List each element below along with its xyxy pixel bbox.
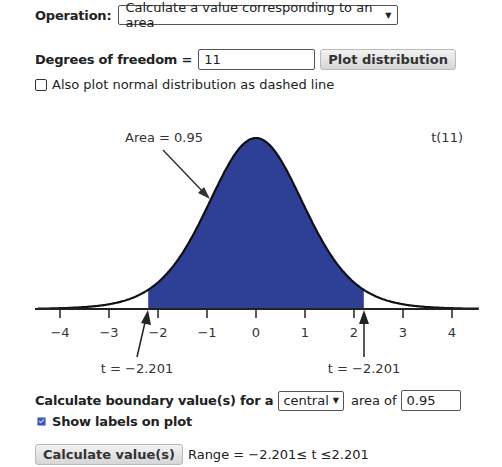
dropdown-arrow-icon: ▼ (333, 396, 339, 405)
show-labels-label: Show labels on plot (52, 414, 192, 429)
x-axis-ticks: −4−3−2−101234 (50, 309, 456, 340)
calc-prefix-label: Calculate boundary value(s) for a (35, 393, 273, 408)
shaded-area (148, 138, 364, 309)
plot-title: t(11) (431, 130, 463, 145)
x-tick-label: 4 (448, 325, 456, 340)
show-labels-row: Show labels on plot (37, 414, 192, 429)
area-arrow-icon (163, 150, 210, 199)
x-tick-label: 1 (301, 325, 309, 340)
left-boundary-label: t = −2.201 (101, 361, 173, 376)
x-tick-label: −4 (50, 325, 69, 340)
area-of-label: area of (351, 393, 397, 408)
calc-row: Calculate boundary value(s) for a centra… (35, 390, 461, 411)
region-select[interactable]: central ▼ (278, 391, 344, 411)
x-tick-label: 2 (350, 325, 358, 340)
area-label: Area = 0.95 (125, 130, 203, 145)
calc-result-row: Calculate value(s) Range = −2.201≤ t ≤2.… (35, 444, 369, 465)
show-labels-checkbox[interactable] (37, 417, 46, 426)
x-tick-label: −1 (197, 325, 216, 340)
area-value-input[interactable] (401, 390, 461, 411)
region-select-value: central (283, 393, 328, 408)
x-tick-label: 3 (399, 325, 407, 340)
right-boundary-label: t = −2.201 (328, 361, 400, 376)
x-tick-label: −2 (148, 325, 167, 340)
x-tick-label: 0 (252, 325, 260, 340)
x-tick-label: −3 (99, 325, 118, 340)
right-boundary-arrow-icon (359, 310, 369, 357)
calculate-values-button[interactable]: Calculate value(s) (35, 444, 183, 465)
result-text: Range = −2.201≤ t ≤2.201 (188, 447, 369, 462)
t-distribution-plot: −4−3−2−101234 t(11) Area = 0.95 t = −2.2… (0, 0, 502, 385)
